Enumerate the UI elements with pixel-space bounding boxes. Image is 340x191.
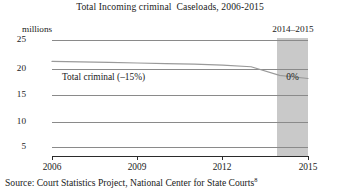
source-note: Source: Court Statistics Project, Nation… — [5, 176, 257, 188]
y-tick-label-5: 5 — [0, 142, 26, 151]
x-tick-mark-2015 — [308, 156, 309, 160]
source-note-text: Source: Court Statistics Project, Nation… — [5, 177, 254, 188]
x-tick-label-2009: 2009 — [115, 162, 159, 172]
y-tick-label-25: 25 — [0, 35, 26, 44]
x-axis-line — [52, 156, 309, 157]
source-note-superscript: 8 — [254, 176, 257, 183]
x-tick-mark-2012 — [222, 156, 223, 160]
plot-area — [52, 34, 308, 156]
y-tick-label-10: 10 — [0, 117, 26, 126]
highlight-band-label: 2014–2015 — [253, 24, 333, 34]
x-tick-mark-2009 — [137, 156, 138, 160]
chart-figure: Total Incoming criminal Caseloads, 2006-… — [0, 0, 340, 191]
y-axis-unit-label: millions — [22, 24, 52, 34]
y-tick-label-15: 15 — [0, 90, 26, 99]
x-tick-mark-2006 — [52, 156, 53, 160]
y-tick-label-20: 20 — [0, 64, 26, 73]
chart-title: Total Incoming criminal Caseloads, 2006-… — [0, 1, 340, 12]
highlight-band-value: 0% — [277, 72, 308, 82]
x-tick-label-2015: 2015 — [286, 162, 330, 172]
x-tick-label-2012: 2012 — [200, 162, 244, 172]
series-line-total-criminal — [52, 34, 308, 156]
x-tick-label-2006: 2006 — [30, 162, 74, 172]
series-annotation: Total criminal (–15%) — [62, 72, 145, 82]
